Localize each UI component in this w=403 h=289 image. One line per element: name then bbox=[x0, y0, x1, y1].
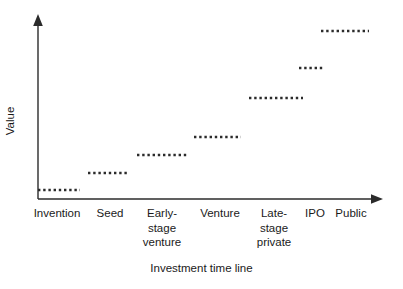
x-axis-tick-label: Late- stage private bbox=[250, 206, 298, 250]
x-axis-tick-label: Venture bbox=[194, 206, 246, 221]
x-axis-tick-label: Invention bbox=[26, 206, 88, 221]
x-axis-arrow-icon bbox=[371, 194, 383, 204]
value-vs-investment-timeline-chart: Value InventionSeedEarly- stage ventureV… bbox=[0, 0, 403, 289]
y-axis-arrow-icon bbox=[33, 14, 43, 26]
step-segments-group bbox=[38, 31, 369, 190]
x-axis-tick-label: Public bbox=[330, 206, 372, 221]
x-axis-tick-label: IPO bbox=[302, 206, 328, 221]
chart-plot-area bbox=[0, 0, 403, 289]
x-axis-tick-label: Seed bbox=[92, 206, 128, 221]
x-axis-title: Investment time line bbox=[0, 261, 403, 275]
x-axis-tick-label: Early- stage venture bbox=[136, 206, 188, 250]
y-axis-title: Value bbox=[4, 86, 17, 156]
